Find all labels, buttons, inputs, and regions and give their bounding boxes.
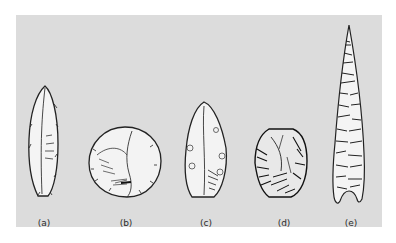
figure-panel: (a) (b) (c) (d) (e) bbox=[16, 15, 382, 227]
tool-b-discoid-illustration bbox=[87, 125, 163, 199]
label-c: (c) bbox=[191, 218, 221, 228]
tool-a-blade-illustration bbox=[26, 84, 62, 199]
label-d: (d) bbox=[269, 218, 299, 228]
label-b: (b) bbox=[111, 218, 141, 228]
label-a: (a) bbox=[29, 218, 59, 228]
tool-e-long-point-illustration bbox=[330, 23, 368, 207]
tool-d-core-illustration bbox=[253, 127, 309, 199]
tool-c-leaf-point-illustration bbox=[182, 100, 230, 200]
label-e: (e) bbox=[336, 218, 366, 228]
